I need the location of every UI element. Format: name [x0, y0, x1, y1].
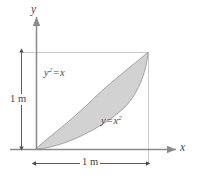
dimension-label-vertical: 1 m — [8, 94, 28, 105]
curve-upper-operator: = — [52, 67, 60, 78]
curve-lower-operator: = — [106, 115, 114, 126]
curve-label-y-equals-x-squared: y=x2 — [101, 116, 122, 127]
curve-lower-exponent: 2 — [118, 114, 122, 122]
dimension-label-horizontal: 1 m — [80, 157, 100, 168]
curve-lower-base: y — [101, 115, 106, 126]
figure-container: y x y2=x y=x2 1 m 1 m — [0, 0, 206, 180]
x-axis-label: x — [180, 142, 185, 154]
curve-label-y-squared-equals-x: y2=x — [44, 68, 65, 79]
curve-upper-rhs: x — [60, 67, 65, 78]
y-axis-label: y — [31, 4, 36, 16]
figure-canvas — [0, 0, 206, 180]
